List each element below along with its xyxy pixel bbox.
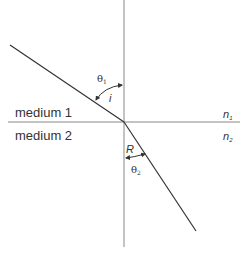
- medium-2-label: medium 2: [15, 128, 72, 143]
- refraction-angle-label: R: [126, 143, 134, 155]
- medium-1-label: medium 1: [15, 105, 72, 120]
- n2-label: n2: [223, 130, 233, 143]
- theta2-label: θ2: [131, 164, 141, 176]
- theta1-label: θ1: [97, 73, 107, 85]
- refracted-ray: [124, 122, 196, 231]
- n1-label: n1: [223, 108, 232, 121]
- refraction-diagram: medium 1 medium 2 n1 n2 θ1 i R θ2: [0, 0, 246, 257]
- incidence-angle-label: i: [109, 92, 112, 104]
